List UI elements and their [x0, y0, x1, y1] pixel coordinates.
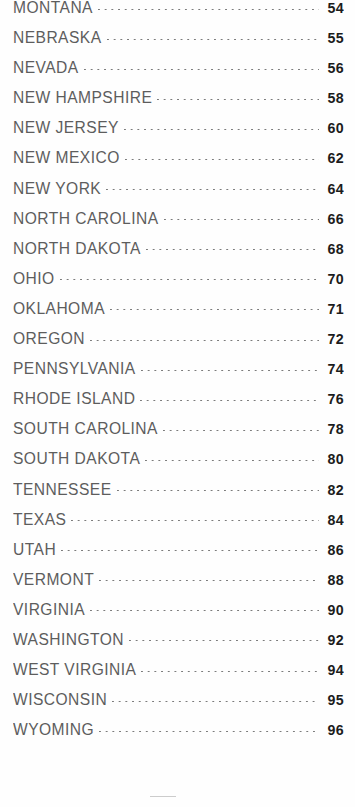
dot-leader [146, 249, 319, 250]
index-entry-page-number: 54 [322, 1, 344, 15]
index-entry[interactable]: TENNESSEE82 [13, 482, 344, 512]
index-entry-page-number: 66 [322, 212, 344, 226]
index-entry-page-number: 84 [322, 513, 344, 527]
dot-leader [90, 340, 319, 341]
index-entry[interactable]: VERMONT88 [13, 572, 344, 602]
index-entry[interactable]: SOUTH CAROLINA78 [13, 421, 344, 451]
dot-leader [164, 219, 319, 220]
index-entry[interactable]: UTAH86 [13, 542, 344, 572]
dot-leader [125, 159, 319, 160]
index-entry-label: NORTH CAROLINA [13, 211, 163, 227]
index-entry[interactable]: MONTANA54 [13, 0, 344, 30]
dot-leader [90, 610, 319, 611]
index-entry-page-number: 95 [322, 693, 344, 707]
index-entry-page-number: 60 [322, 121, 344, 135]
index-entry-page-number: 70 [322, 272, 344, 286]
index-entry-page-number: 71 [322, 302, 344, 316]
index-entry-label: NORTH DAKOTA [13, 241, 145, 257]
index-entry[interactable]: OKLAHOMA71 [13, 301, 344, 331]
index-entry[interactable]: SOUTH DAKOTA80 [13, 451, 344, 481]
index-entry-page-number: 88 [322, 573, 344, 587]
index-entry[interactable]: PENNSYLVANIA74 [13, 361, 344, 391]
dot-leader [117, 490, 319, 491]
index-page: MONTANA54NEBRASKA55NEVADA56NEW HAMPSHIRE… [0, 0, 355, 807]
index-entry-label: VIRGINIA [13, 602, 89, 618]
index-entry[interactable]: RHODE ISLAND76 [13, 391, 344, 421]
index-entry[interactable]: NEVADA56 [13, 60, 344, 90]
index-entry[interactable]: NORTH CAROLINA66 [13, 211, 344, 241]
dot-leader [141, 671, 319, 672]
dot-leader [107, 39, 319, 40]
index-entry-page-number: 58 [322, 91, 344, 105]
index-entry-page-number: 94 [322, 663, 344, 677]
index-entry-label: RHODE ISLAND [13, 391, 139, 407]
index-entry-label: WISCONSIN [13, 692, 111, 708]
index-entry-label: NEBRASKA [13, 30, 106, 46]
index-entry-label: WEST VIRGINIA [13, 662, 140, 678]
index-entry-page-number: 76 [322, 392, 344, 406]
index-entry[interactable]: NORTH DAKOTA68 [13, 241, 344, 271]
index-entry-label: TENNESSEE [13, 482, 116, 498]
index-entry-label: UTAH [13, 542, 60, 558]
index-entry-label: PENNSYLVANIA [13, 361, 140, 377]
index-entry-page-number: 78 [322, 422, 344, 436]
dot-leader [157, 99, 319, 100]
index-entry-page-number: 55 [322, 31, 344, 45]
index-entry-label: VERMONT [13, 572, 98, 588]
index-entry[interactable]: OREGON72 [13, 331, 344, 361]
index-entry[interactable]: NEW YORK64 [13, 181, 344, 211]
index-entry-page-number: 62 [322, 151, 344, 165]
index-entry[interactable]: WEST VIRGINIA94 [13, 662, 344, 692]
index-entry-page-number: 80 [322, 452, 344, 466]
index-entry-label: NEW YORK [13, 181, 105, 197]
dot-leader [140, 400, 319, 401]
index-entry[interactable]: WASHINGTON92 [13, 632, 344, 662]
dot-leader [84, 69, 319, 70]
index-entry-label: OREGON [13, 331, 89, 347]
index-entry-page-number: 90 [322, 603, 344, 617]
dot-leader [98, 9, 319, 10]
index-entry-label: WYOMING [13, 722, 98, 738]
index-entry[interactable]: VIRGINIA90 [13, 602, 344, 632]
index-entry[interactable]: TEXAS84 [13, 512, 344, 542]
index-entry-page-number: 64 [322, 182, 344, 196]
dot-leader [129, 640, 319, 641]
dot-leader [61, 550, 319, 551]
index-entry-page-number: 86 [322, 543, 344, 557]
dot-leader [163, 430, 319, 431]
dot-leader [110, 309, 319, 310]
index-entry-page-number: 68 [322, 242, 344, 256]
footer-divider-rule [150, 796, 176, 797]
index-entry-page-number: 56 [322, 61, 344, 75]
dot-leader [99, 580, 319, 581]
index-entry-label: NEVADA [13, 60, 83, 76]
index-entry-label: WASHINGTON [13, 632, 128, 648]
index-entry[interactable]: NEW MEXICO62 [13, 150, 344, 180]
index-entry[interactable]: WYOMING96 [13, 722, 344, 752]
index-entry-page-number: 92 [322, 633, 344, 647]
dot-leader [106, 189, 319, 190]
index-entry[interactable]: WISCONSIN95 [13, 692, 344, 722]
dot-leader [71, 520, 319, 521]
index-entry-label: SOUTH DAKOTA [13, 451, 144, 467]
dot-leader [60, 279, 319, 280]
index-entry-list: MONTANA54NEBRASKA55NEVADA56NEW HAMPSHIRE… [13, 0, 344, 752]
index-entry-label: NEW MEXICO [13, 150, 124, 166]
index-entry-label: TEXAS [13, 512, 70, 528]
index-entry-label: OHIO [13, 271, 59, 287]
dot-leader [112, 701, 319, 702]
index-entry[interactable]: NEBRASKA55 [13, 30, 344, 60]
dot-leader [99, 731, 319, 732]
dot-leader [124, 129, 319, 130]
index-entry-label: SOUTH CAROLINA [13, 421, 162, 437]
index-entry-page-number: 72 [322, 332, 344, 346]
dot-leader [145, 460, 319, 461]
index-entry-label: NEW JERSEY [13, 120, 123, 136]
index-entry-label: MONTANA [13, 0, 97, 16]
index-entry[interactable]: OHIO70 [13, 271, 344, 301]
dot-leader [141, 370, 319, 371]
index-entry-page-number: 82 [322, 483, 344, 497]
index-entry-page-number: 96 [322, 723, 344, 737]
index-entry[interactable]: NEW JERSEY60 [13, 120, 344, 150]
index-entry[interactable]: NEW HAMPSHIRE58 [13, 90, 344, 120]
